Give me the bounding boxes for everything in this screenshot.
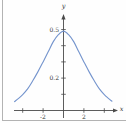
function-graph	[0, 0, 126, 123]
axes-layer	[14, 14, 118, 118]
y-tick-label-0-5: 0.5	[44, 26, 59, 33]
figure-canvas: 0.5 0.2 -2 2 y x	[0, 0, 126, 123]
x-tick-label-neg2: -2	[35, 113, 51, 120]
x-axis-label: x	[117, 106, 126, 113]
y-tick-label-0-2: 0.2	[44, 74, 59, 81]
x-tick-label-2: 2	[76, 113, 92, 120]
y-axis-label: y	[58, 3, 69, 10]
